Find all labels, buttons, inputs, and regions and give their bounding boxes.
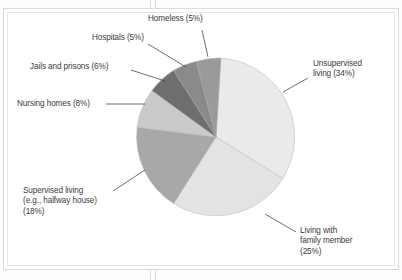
leader-line-hospitals bbox=[148, 44, 186, 67]
pie-label-living-with-family-member: Living with family member (25%) bbox=[300, 226, 352, 257]
pie-label-nursing-homes: Nursing homes (8%) bbox=[17, 99, 90, 109]
leader-line-jails bbox=[131, 70, 165, 81]
pie-label-unsupervised-living: Unsupervised living (34%) bbox=[313, 59, 362, 80]
leader-line-homeless bbox=[202, 30, 208, 57]
leader-line-family bbox=[265, 214, 296, 232]
leader-line-unsupervised bbox=[283, 78, 308, 92]
leader-line-supervised bbox=[113, 170, 145, 191]
pie-chart: Homeless (5%) Hospitals (5%) Jails and p… bbox=[0, 0, 402, 280]
scanned-page: Homeless (5%) Hospitals (5%) Jails and p… bbox=[0, 0, 402, 280]
pie-label-homeless: Homeless (5%) bbox=[148, 14, 203, 24]
pie-label-hospitals: Hospitals (5%) bbox=[92, 33, 144, 43]
pie-label-supervised-living: Supervised living (e.g., halfway house) … bbox=[23, 186, 97, 217]
pie-label-jails-and-prisons: Jails and prisons (6%) bbox=[30, 62, 108, 72]
